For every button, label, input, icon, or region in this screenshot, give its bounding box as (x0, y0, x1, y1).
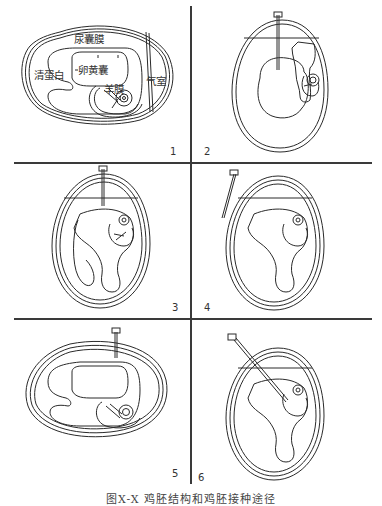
panel-1: 尿囊膜 卵黄囊 清蛋白 气室 羊膜 1 (0, 0, 190, 162)
egg-diagram-vertical (192, 164, 382, 318)
egg-diagram-vertical (192, 320, 382, 484)
label-amnion: 羊膜 (104, 81, 124, 96)
panel-number-6: 6 (198, 472, 204, 483)
panel-3: 3 (0, 164, 190, 318)
egg-diagram-horizontal (0, 320, 190, 484)
panel-6: 6 (192, 320, 382, 484)
panel-number-5: 5 (172, 468, 178, 479)
label-albumen: 清蛋白 (34, 67, 64, 82)
panel-number-2: 2 (204, 146, 210, 157)
panel-number-4: 4 (204, 302, 210, 313)
egg-diagram-vertical (0, 164, 190, 318)
label-yolk-sac: 卵黄囊 (78, 62, 108, 77)
egg-diagram-vertical (192, 0, 382, 162)
panel-number-3: 3 (172, 302, 178, 313)
panel-number-1: 1 (170, 146, 176, 157)
panel-4: 4 (192, 164, 382, 318)
figure-caption: 图X-X 鸡胚结构和鸡胚接种途径 (0, 490, 382, 506)
label-allantois: 尿囊膜 (74, 31, 104, 46)
panel-2: 2 (192, 0, 382, 162)
label-air-cell: 气室 (146, 73, 166, 88)
panel-5: 5 (0, 320, 190, 484)
